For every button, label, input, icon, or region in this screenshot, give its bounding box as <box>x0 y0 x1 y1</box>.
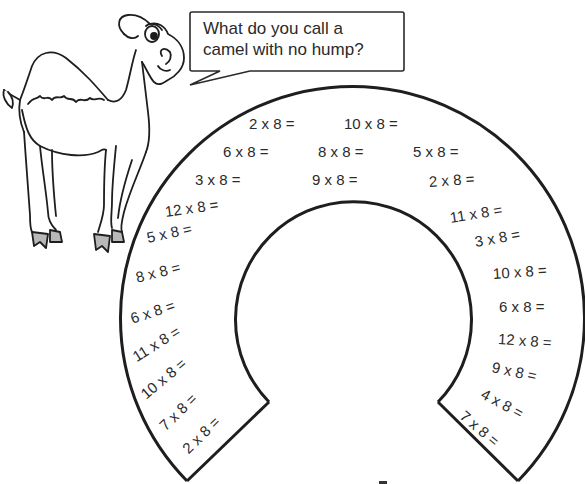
riddle-question: What do you call a camel with no hump? <box>203 18 403 60</box>
problem-8: 2 x 8 = <box>428 171 474 190</box>
worksheet: What do you call a camel with no hump? 2… <box>0 0 585 484</box>
problem-6: 3 x 8 = <box>195 172 240 188</box>
riddle-line-2: camel with no hump? <box>203 39 403 60</box>
problem-1: 2 x 8 = <box>249 116 294 132</box>
camel-illustration <box>3 15 184 252</box>
problem-2: 10 x 8 = <box>344 116 398 132</box>
problem-5: 5 x 8 = <box>413 144 458 160</box>
riddle-line-1: What do you call a <box>203 18 403 39</box>
problem-3: 6 x 8 = <box>223 144 268 160</box>
problem-4: 8 x 8 = <box>318 144 363 160</box>
problem-7: 9 x 8 = <box>312 172 357 188</box>
problem-20: 6 x 8 = <box>499 299 544 315</box>
